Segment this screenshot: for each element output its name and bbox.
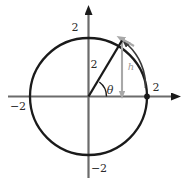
circle-diagram-canvas: 2 −2 2 −2 2 θ h	[0, 0, 186, 185]
marked-point-dot	[144, 94, 150, 100]
angle-arc	[99, 82, 106, 97]
x-axis-left-label: −2	[10, 100, 26, 113]
y-axis-top-label: 2	[72, 21, 79, 34]
circle-diagram: 2 −2 2 −2 2 θ h	[0, 0, 186, 185]
angle-theta-label: θ	[107, 84, 114, 97]
y-axis-bottom-label: −2	[91, 162, 107, 175]
x-axis-right-label: 2	[153, 81, 160, 94]
radius-length-label: 2	[91, 58, 98, 71]
height-label: h	[128, 61, 134, 72]
